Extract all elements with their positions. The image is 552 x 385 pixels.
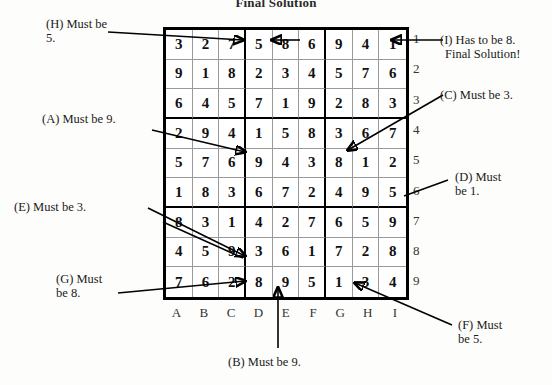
annotation-b: (B) Must be 9.	[228, 355, 388, 369]
annotation-g-line1: (G) Must	[56, 272, 151, 286]
arrow-a	[152, 130, 245, 152]
annotation-c: (C) Must be 3.	[440, 88, 552, 102]
annotation-g: (G) Must be 8.	[56, 272, 151, 300]
annotation-d-line1: (D) Must	[455, 170, 547, 184]
annotation-i: (I) Has to be 8. Final Solution!	[440, 33, 552, 61]
annotation-c-line1: (C) Must be 3.	[440, 88, 552, 102]
arrow-e	[148, 208, 245, 256]
annotation-e-line1: (E) Must be 3.	[14, 200, 144, 214]
annotation-d-line2: be 1.	[455, 184, 547, 198]
annotation-f: (F) Must be 5.	[458, 318, 550, 346]
annotation-e: (E) Must be 3.	[14, 200, 144, 214]
arrow-c	[348, 95, 443, 150]
annotation-a: (A) Must be 9.	[42, 112, 167, 126]
arrow-f	[355, 283, 452, 325]
arrow-d	[404, 180, 448, 196]
annotation-d: (D) Must be 1.	[455, 170, 547, 198]
annotation-i-line2: Final Solution!	[440, 47, 552, 61]
annotation-f-line1: (F) Must	[458, 318, 550, 332]
annotation-h: (H) Must be 5.	[46, 17, 156, 45]
arrow-e2	[163, 222, 243, 258]
annotation-h-line1: (H) Must be	[46, 17, 156, 31]
annotation-a-line1: (A) Must be 9.	[42, 112, 167, 126]
annotation-f-line2: be 5.	[458, 332, 550, 346]
annotation-h-line2: 5.	[46, 31, 156, 45]
annotation-b-line1: (B) Must be 9.	[228, 355, 388, 369]
annotation-i-line1: (I) Has to be 8.	[440, 33, 552, 47]
annotation-g-line2: be 8.	[56, 286, 151, 300]
